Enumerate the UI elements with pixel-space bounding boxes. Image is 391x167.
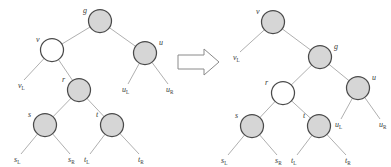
node-label-s: s [28,110,31,119]
left-tree-leaf-edges [21,50,168,154]
tree-node-s [34,114,57,137]
node-label-s: s [235,111,238,120]
after-rotation-tree-svg: vgrust vLuLuRsLsRtLtR [195,0,391,167]
leaf-label-sL: sL [14,155,20,165]
leaf-label-uL: uL [122,85,129,95]
tree-node-g [309,46,332,69]
leaf-label-uR: uR [166,85,174,95]
left-tree-edges [45,21,145,125]
before-rotation-tree-svg: gvurst vLuLuRsLsRtLtR [0,0,196,167]
leaf-subscript-sR: R [71,159,75,165]
leaf-subscript-tL: L [86,159,89,165]
leaf-subscript-tR: R [347,160,351,166]
leaf-label-uR: uR [379,120,387,130]
leaf-subscript-sR: R [278,160,282,166]
leaf-label-tL: tL [84,155,89,165]
node-label-u: u [372,73,376,82]
leaf-subscript-tR: R [140,159,144,165]
leaf-subscript-sL: L [224,160,227,166]
node-label-r: r [265,78,269,87]
node-label-r: r [62,75,66,84]
tree-node-u [347,77,370,100]
tree-node-g [89,10,112,33]
leaf-label-tR: tR [138,155,144,165]
leaf-subscript-vL: L [237,57,240,63]
right-tree-leaf-labels: vLuLuRsLsRtLtR [221,53,387,166]
node-label-t: t [303,111,306,120]
leaf-subscript-vL: L [22,85,25,91]
tree-node-v [262,11,285,34]
node-label-u: u [159,38,163,47]
tree-node-u [134,42,157,65]
tree-rotation-figure: gvurst vLuLuRsLsRtLtR vgrust vLuLuRsLsRt… [0,0,391,167]
leaf-subscript-uL: L [126,89,129,95]
node-label-v: v [36,35,40,44]
tree-node-s [241,115,264,138]
leaf-label-uL: uL [335,120,342,130]
right-tree-node-labels: vgrust [235,7,376,120]
tree-node-r [272,82,295,105]
leaf-subscript-tL: L [293,160,296,166]
leaf-label-sR: sR [275,156,282,166]
tree-node-r [68,79,91,102]
node-label-g: g [334,42,338,51]
leaf-subscript-uL: L [339,124,342,130]
node-label-g: g [83,6,87,15]
after-rotation-tree-panel: vgrust vLuLuRsLsRtLtR [195,0,391,167]
leaf-label-tR: tR [345,156,351,166]
leaf-subscript-uR: R [170,89,174,95]
node-label-v: v [256,7,260,16]
tree-node-t [308,115,331,138]
left-tree-nodes [34,10,157,137]
leaf-label-vL: vL [233,53,240,63]
leaf-label-sR: sR [68,155,75,165]
leaf-label-tL: tL [291,156,296,166]
tree-node-v [41,39,64,62]
tree-node-t [101,114,124,137]
leaf-label-vL: vL [18,81,25,91]
node-label-t: t [96,110,99,119]
leaf-subscript-uR: R [383,124,387,130]
leaf-label-sL: sL [221,156,227,166]
leaf-subscript-sL: L [17,159,20,165]
before-rotation-tree-panel: gvurst vLuLuRsLsRtLtR [0,0,196,167]
